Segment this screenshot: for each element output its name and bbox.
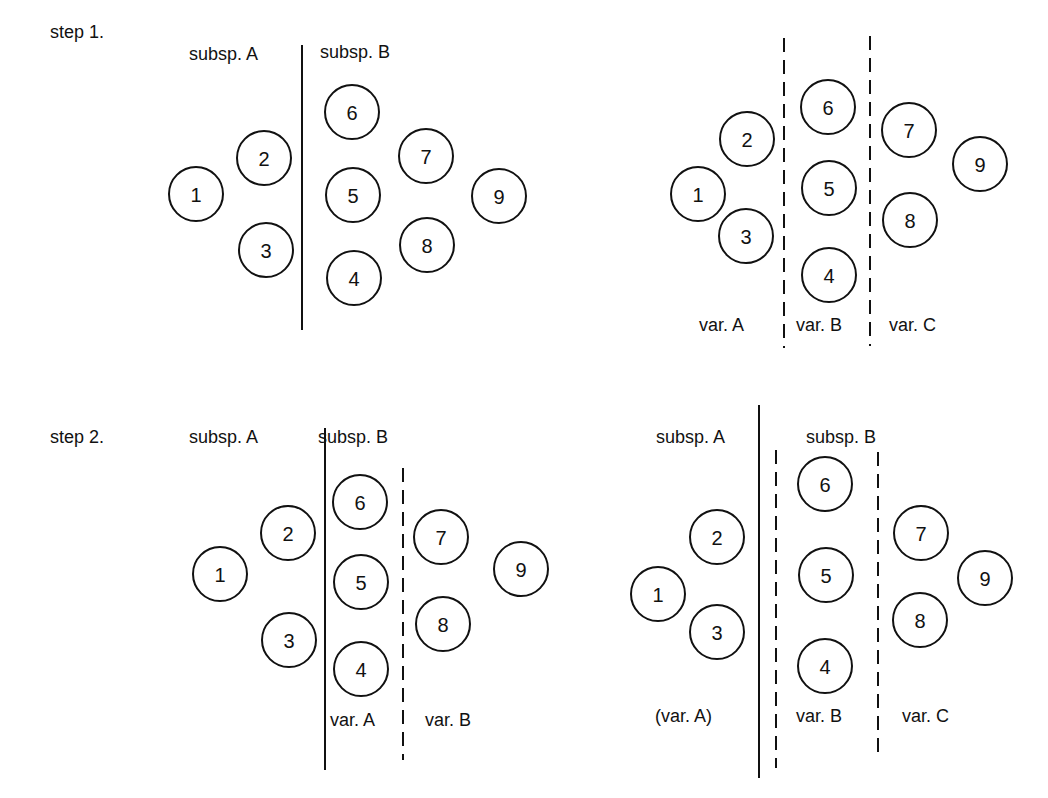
- node-number: 4: [823, 265, 834, 287]
- node-number: 9: [974, 154, 985, 176]
- node-number: 6: [346, 102, 357, 124]
- population-node: 8: [400, 218, 454, 272]
- taxon-label: (var. A): [655, 706, 712, 726]
- population-node: 5: [326, 168, 380, 222]
- node-number: 2: [258, 148, 269, 170]
- population-node: 2: [237, 131, 291, 185]
- population-node: 5: [799, 548, 853, 602]
- node-number: 6: [819, 474, 830, 496]
- node-number: 5: [347, 185, 358, 207]
- node-number: 9: [493, 186, 504, 208]
- node-number: 9: [979, 568, 990, 590]
- taxon-label: var. B: [796, 706, 842, 726]
- population-node: 9: [958, 551, 1012, 605]
- population-node: 8: [416, 597, 470, 651]
- population-node: 7: [399, 129, 453, 183]
- panel-step1-varieties: 123654789var. Avar. Bvar. C: [671, 36, 1007, 348]
- node-number: 7: [915, 523, 926, 545]
- node-number: 6: [822, 97, 833, 119]
- node-number: 3: [260, 240, 271, 262]
- population-node: 1: [193, 547, 247, 601]
- taxon-label: subsp. B: [806, 427, 876, 447]
- taxonomy-diagram: step 1.step 2.123654789subsp. Asubsp. B1…: [0, 0, 1048, 798]
- population-node: 2: [690, 510, 744, 564]
- taxon-label: var. B: [796, 315, 842, 335]
- population-node: 3: [262, 613, 316, 667]
- population-node: 8: [883, 193, 937, 247]
- population-node: 2: [720, 112, 774, 166]
- node-number: 1: [190, 184, 201, 206]
- node-number: 5: [823, 178, 834, 200]
- panel-step2-all-varieties: 123654789subsp. Asubsp. B(var. A)var. Bv…: [631, 405, 1012, 778]
- population-node: 3: [690, 605, 744, 659]
- population-node: 5: [334, 555, 388, 609]
- node-number: 2: [282, 523, 293, 545]
- node-number: 8: [437, 614, 448, 636]
- population-node: 7: [414, 510, 468, 564]
- population-node: 6: [325, 85, 379, 139]
- node-number: 3: [283, 630, 294, 652]
- population-node: 9: [953, 137, 1007, 191]
- node-number: 3: [711, 622, 722, 644]
- node-number: 8: [914, 610, 925, 632]
- node-number: 3: [740, 226, 751, 248]
- taxon-label: subsp. A: [189, 44, 258, 64]
- population-node: 6: [333, 475, 387, 529]
- population-node: 4: [798, 639, 852, 693]
- population-node: 4: [334, 642, 388, 696]
- taxon-label: subsp. B: [318, 427, 388, 447]
- node-number: 4: [819, 656, 830, 678]
- population-node: 9: [494, 542, 548, 596]
- node-number: 2: [741, 129, 752, 151]
- taxon-label: var. C: [902, 706, 949, 726]
- node-number: 7: [420, 146, 431, 168]
- population-node: 7: [882, 103, 936, 157]
- population-node: 4: [327, 251, 381, 305]
- population-node: 1: [671, 167, 725, 221]
- taxon-label: var. A: [330, 710, 375, 730]
- taxon-label: var. B: [425, 710, 471, 730]
- population-node: 1: [169, 167, 223, 221]
- taxon-label: subsp. B: [320, 42, 390, 62]
- node-number: 7: [903, 120, 914, 142]
- node-number: 1: [652, 584, 663, 606]
- taxon-label: var. A: [699, 315, 744, 335]
- population-node: 6: [801, 80, 855, 134]
- node-number: 5: [820, 565, 831, 587]
- population-node: 2: [261, 506, 315, 560]
- step-label: step 1.: [50, 22, 104, 42]
- node-number: 6: [354, 492, 365, 514]
- node-number: 1: [214, 564, 225, 586]
- population-node: 7: [894, 506, 948, 560]
- panel-step2-varieties-in-subspB: 123654789subsp. Asubsp. Bvar. Avar. B: [189, 427, 548, 770]
- taxon-label: subsp. A: [189, 427, 258, 447]
- taxon-label: var. C: [889, 315, 936, 335]
- population-node: 3: [239, 223, 293, 277]
- population-node: 4: [802, 248, 856, 302]
- node-number: 8: [421, 235, 432, 257]
- step-label: step 2.: [50, 427, 104, 447]
- node-number: 5: [355, 572, 366, 594]
- taxon-label: subsp. A: [656, 427, 725, 447]
- population-node: 5: [802, 161, 856, 215]
- node-number: 4: [355, 659, 366, 681]
- population-node: 1: [631, 567, 685, 621]
- node-number: 4: [348, 268, 359, 290]
- population-node: 9: [472, 169, 526, 223]
- node-number: 1: [692, 184, 703, 206]
- panel-step1-subspecies: 123654789subsp. Asubsp. B: [169, 42, 526, 330]
- node-number: 2: [711, 527, 722, 549]
- node-number: 8: [904, 210, 915, 232]
- population-node: 3: [719, 209, 773, 263]
- node-number: 9: [515, 559, 526, 581]
- population-node: 6: [798, 457, 852, 511]
- node-number: 7: [435, 527, 446, 549]
- population-node: 8: [893, 593, 947, 647]
